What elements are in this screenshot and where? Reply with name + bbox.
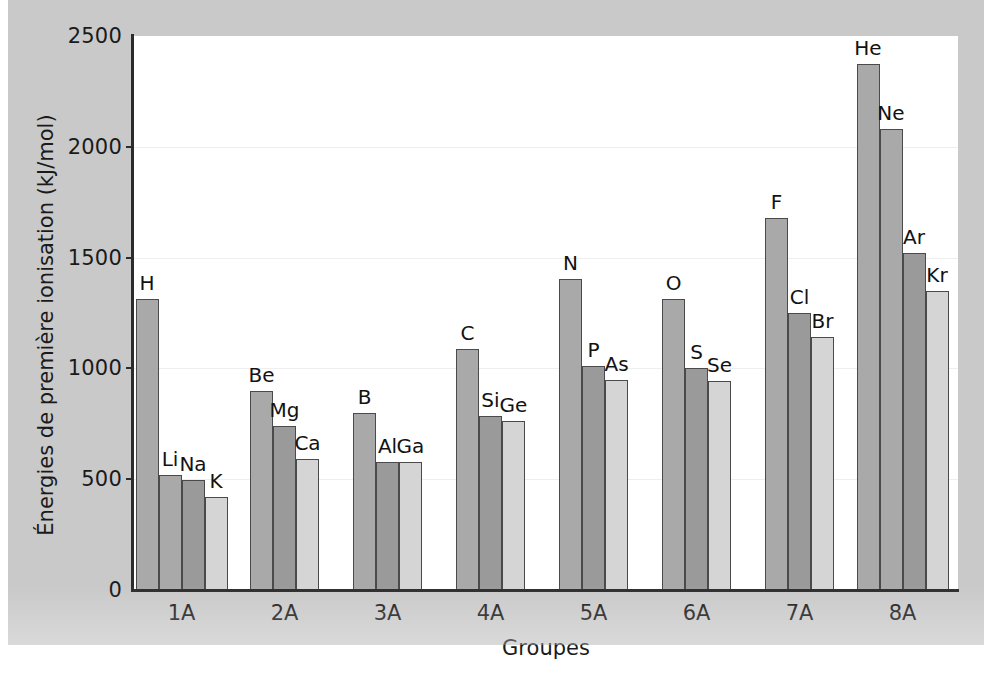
bar-group-4a: CSiGe <box>456 36 525 590</box>
plot-area: HLiNaKBeMgCaBAlGaCSiGeNPAsOSSeFClBrHeNeA… <box>134 36 958 590</box>
y-tick-label: 2000 <box>14 135 122 159</box>
bar-k: K <box>205 497 228 590</box>
bar-label: Cl <box>790 287 810 307</box>
x-tick-label-5a: 5A <box>580 601 608 625</box>
bar-group-3a: BAlGa <box>353 36 422 590</box>
bar-c: C <box>456 349 479 590</box>
bar-cl: Cl <box>788 313 811 590</box>
y-tick-mark <box>126 478 132 480</box>
bar-ar: Ar <box>903 253 926 590</box>
bar-label: Ar <box>903 227 925 247</box>
bar-cluster: FClBr <box>765 36 834 590</box>
bar-ne: Ne <box>880 129 903 590</box>
bar-label: C <box>461 323 475 343</box>
x-tick-label-4a: 4A <box>477 601 505 625</box>
bar-li: Li <box>159 475 182 590</box>
bar-group-2a: BeMgCa <box>250 36 319 590</box>
bar-label: F <box>771 192 783 212</box>
chart-screenshot: HLiNaKBeMgCaBAlGaCSiGeNPAsOSSeFClBrHeNeA… <box>0 0 992 686</box>
bar-p: P <box>582 366 605 590</box>
bar-as: As <box>605 380 628 590</box>
bar-cluster: BeMgCa <box>250 36 319 590</box>
y-tick-label: 2500 <box>14 24 122 48</box>
bar-label: Ca <box>294 433 320 453</box>
y-axis-ticks: 05001000150020002500 <box>8 0 122 686</box>
bar-label: P <box>587 340 599 360</box>
bar-label: K <box>209 471 222 491</box>
y-tick-mark <box>126 257 132 259</box>
bar-label: Br <box>812 311 834 331</box>
bar-na: Na <box>182 480 205 590</box>
bar-group-7a: FClBr <box>765 36 834 590</box>
bar-se: Se <box>708 381 731 590</box>
bar-cluster: HLiNaK <box>136 36 228 590</box>
bar-h: H <box>136 299 159 590</box>
y-tick-mark <box>126 367 132 369</box>
y-tick-label: 500 <box>14 467 122 491</box>
x-tick-label-7a: 7A <box>786 601 814 625</box>
bar-group-6a: OSSe <box>662 36 731 590</box>
y-tick-label: 1000 <box>14 356 122 380</box>
bar-label: Na <box>179 454 206 474</box>
bar-group-1a: HLiNaK <box>136 36 228 590</box>
bar-b: B <box>353 413 376 591</box>
bar-si: Si <box>479 416 502 590</box>
x-tick-label-8a: 8A <box>889 601 917 625</box>
y-axis-line <box>131 34 134 592</box>
bar-kr: Kr <box>926 291 949 590</box>
bar-label: Ge <box>500 395 528 415</box>
y-tick-mark <box>126 146 132 148</box>
bar-cluster: OSSe <box>662 36 731 590</box>
y-tick-label: 1500 <box>14 246 122 270</box>
bar-cluster: CSiGe <box>456 36 525 590</box>
bar-label: Ga <box>397 436 425 456</box>
bar-ca: Ca <box>296 459 319 590</box>
figure-frame: HLiNaKBeMgCaBAlGaCSiGeNPAsOSSeFClBrHeNeA… <box>8 0 984 645</box>
bar-label: Li <box>162 449 179 469</box>
bar-cluster: BAlGa <box>353 36 422 590</box>
x-tick-label-6a: 6A <box>683 601 711 625</box>
bar-o: O <box>662 299 685 590</box>
bar-label: Mg <box>270 400 300 420</box>
bar-label: Kr <box>926 265 947 285</box>
bar-label: O <box>666 273 682 293</box>
x-axis-title: Groupes <box>134 636 958 660</box>
bar-label: He <box>854 38 881 58</box>
bar-label: Ne <box>877 103 904 123</box>
bar-s: S <box>685 368 708 590</box>
bar-label: N <box>563 253 578 273</box>
bar-he: He <box>857 64 880 590</box>
bar-label: S <box>690 342 703 362</box>
bar-mg: Mg <box>273 426 296 590</box>
bar-cluster: NPAs <box>559 36 628 590</box>
bar-group-5a: NPAs <box>559 36 628 590</box>
bar-br: Br <box>811 337 834 590</box>
bar-cluster: HeNeArKr <box>857 36 949 590</box>
bar-label: Al <box>378 436 397 456</box>
bar-group-8a: HeNeArKr <box>857 36 949 590</box>
y-tick-label: 0 <box>14 578 122 602</box>
bar-ga: Ga <box>399 462 422 590</box>
bar-label: Se <box>707 355 732 375</box>
bar-label: As <box>604 354 628 374</box>
bar-ge: Ge <box>502 421 525 590</box>
bar-label: Si <box>481 390 499 410</box>
bar-n: N <box>559 279 582 590</box>
bar-label: H <box>139 273 154 293</box>
x-tick-label-1a: 1A <box>168 601 196 625</box>
x-axis-line <box>131 589 959 592</box>
x-tick-label-3a: 3A <box>374 601 402 625</box>
y-axis-title: Énergies de première ionisation (kJ/mol) <box>34 65 58 585</box>
bar-label: B <box>358 387 372 407</box>
bar-label: Be <box>248 365 274 385</box>
bar-al: Al <box>376 462 399 590</box>
bar-f: F <box>765 218 788 591</box>
x-tick-label-2a: 2A <box>271 601 299 625</box>
